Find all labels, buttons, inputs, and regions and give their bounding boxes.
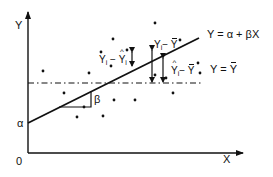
data-point <box>88 72 91 75</box>
explained-yhat: Y <box>171 66 178 76</box>
total-ybar: Y <box>171 40 178 50</box>
data-point <box>179 39 182 42</box>
data-point <box>76 116 79 119</box>
residual-label: Yi − Yi <box>99 55 127 66</box>
total-deviation-label: Yi− Y <box>154 40 178 51</box>
data-point <box>197 62 200 65</box>
mean-equation-ybar: Y <box>230 64 237 75</box>
data-point <box>134 99 137 102</box>
data-point <box>165 77 168 80</box>
total-op: − <box>162 39 171 50</box>
data-point <box>112 38 115 41</box>
regression-equation: Y = α + βX <box>207 29 259 40</box>
total-y: Y <box>154 39 161 50</box>
residual-op: − <box>107 54 118 65</box>
explained-ybar: Y <box>188 66 195 76</box>
data-point <box>154 22 157 25</box>
intercept-label: α <box>17 118 23 129</box>
data-point <box>102 115 105 118</box>
data-point <box>100 51 103 54</box>
slope-label: β <box>94 94 100 105</box>
residual-y: Y <box>99 54 106 65</box>
data-point <box>63 92 66 95</box>
residual-yhat: Y <box>119 55 126 65</box>
y-axis-label: Y <box>15 20 22 31</box>
diagram-canvas <box>0 0 273 177</box>
x-axis-label: X <box>223 154 230 165</box>
mean-equation: Y = Y <box>210 64 237 75</box>
mean-equation-lhs: Y = <box>210 63 230 75</box>
regression-diagram: Y X 0 α β Y = α + βX Y = Y Yi − Yi Yi− Y… <box>0 0 273 177</box>
data-point <box>113 99 116 102</box>
explained-deviation-label: Yi− Y <box>171 66 195 77</box>
data-point <box>172 92 175 95</box>
data-point <box>154 74 157 77</box>
data-point <box>199 72 202 75</box>
data-point <box>126 49 129 52</box>
explained-op: − <box>179 65 188 76</box>
data-point <box>83 106 86 109</box>
data-point <box>42 70 45 73</box>
origin-label: 0 <box>16 156 22 167</box>
residual-yhat-sub: i <box>125 59 127 66</box>
